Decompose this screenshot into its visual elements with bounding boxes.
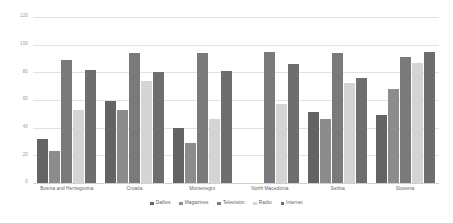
legend-swatch-icon xyxy=(179,202,183,206)
y-axis-tick-label: 20 xyxy=(0,153,28,158)
legend-swatch-icon xyxy=(217,202,221,206)
legend-item[interactable]: Radio xyxy=(253,201,271,206)
legend-item[interactable]: Internet xyxy=(281,201,303,206)
bar-chart: 120100806040200 Bosnia and HerzegovinaCr… xyxy=(0,0,453,223)
y-axis-tick-label: 100 xyxy=(0,42,28,47)
legend-item-label: Television xyxy=(223,201,245,206)
y-axis-tick-label: 120 xyxy=(0,14,28,19)
x-axis-category-label: Montenegro xyxy=(168,186,236,191)
legend-item-label: Magazines xyxy=(185,201,209,206)
y-axis-tick-label: 40 xyxy=(0,125,28,130)
y-axis-tick-label: 60 xyxy=(0,97,28,102)
legend-item-label: Internet xyxy=(286,201,303,206)
x-axis-category-label: Serbia xyxy=(304,186,372,191)
chart-legend: DailiesMagazinesTelevisionRadioInternet xyxy=(0,201,453,206)
legend-swatch-icon xyxy=(253,202,257,206)
x-axis-category-label: Slovenia xyxy=(371,186,439,191)
y-axis-tick-label: 80 xyxy=(0,70,28,75)
legend-swatch-icon xyxy=(150,202,154,206)
x-axis-category-label: North Macedonia xyxy=(236,186,304,191)
legend-item[interactable]: Magazines xyxy=(179,201,208,206)
x-axis-category-labels: Bosnia and HerzegovinaCroatiaMontenegroN… xyxy=(33,186,439,191)
x-axis-category-label: Croatia xyxy=(101,186,169,191)
y-axis-tick-label: 0 xyxy=(0,180,28,185)
legend-item[interactable]: Television xyxy=(217,201,244,206)
legend-item-label: Dailies xyxy=(156,201,171,206)
legend-swatch-icon xyxy=(281,202,285,206)
legend-item-label: Radio xyxy=(259,201,272,206)
x-axis-category-label: Bosnia and Herzegovina xyxy=(33,186,101,191)
legend-item[interactable]: Dailies xyxy=(150,201,170,206)
